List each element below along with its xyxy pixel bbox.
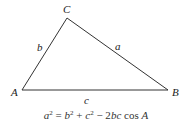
formula-plus: + [74, 109, 86, 121]
formula-minus: − 2 [94, 109, 111, 121]
formula-equals: = [53, 109, 65, 121]
side-label-b: b [37, 42, 43, 53]
formula-angle: A [141, 109, 148, 121]
vertex-label-b: B [172, 87, 179, 98]
vertex-label-a: A [11, 87, 18, 98]
triangle [22, 18, 168, 90]
formula-cos: cos [121, 109, 141, 121]
law-of-cosines-formula: a2 = b2 + c2 − 2bc cos A [0, 110, 192, 121]
formula-term: bc [111, 109, 121, 121]
vertex-label-c: C [63, 4, 70, 15]
side-label-c: c [84, 95, 89, 106]
side-label-a: a [115, 41, 121, 52]
